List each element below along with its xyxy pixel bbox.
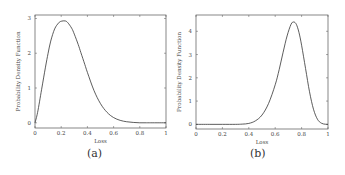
x-tick-label: 0 — [33, 130, 37, 136]
x-tick-label: 0.8 — [135, 130, 144, 136]
x-axis-label: Loss — [256, 139, 269, 145]
y-tick-label: 0 — [28, 120, 32, 126]
figure-canvas: 00.20.40.60.810123LossProbability Densit… — [0, 0, 345, 175]
pdf-curve — [35, 21, 166, 123]
x-tick-label: 0.2 — [57, 130, 66, 136]
y-tick-label: 2 — [28, 50, 32, 56]
x-tick-label: 0.4 — [244, 131, 253, 137]
caption-b: (b) — [250, 147, 266, 160]
x-axis-label: Loss — [94, 138, 107, 144]
plot-a: 00.20.40.60.810123LossProbability Densit… — [15, 15, 168, 144]
x-tick-label: 0 — [194, 131, 198, 137]
plot-frame — [35, 15, 166, 128]
x-tick-label: 0.6 — [271, 131, 280, 137]
pdf-curve — [196, 22, 328, 124]
y-axis-label: Probability Density Function — [176, 32, 183, 112]
y-tick-label: 3 — [189, 52, 193, 58]
x-tick-label: 0.8 — [297, 131, 306, 137]
y-tick-label: 1 — [28, 85, 32, 91]
x-tick-label: 1 — [164, 130, 168, 136]
y-tick-label: 2 — [189, 75, 193, 81]
x-tick-label: 0.2 — [218, 131, 227, 137]
y-tick-label: 1 — [189, 98, 193, 104]
x-tick-label: 1 — [326, 131, 330, 137]
x-tick-label: 0.6 — [109, 130, 118, 136]
y-tick-label: 4 — [189, 28, 193, 34]
plot-frame — [196, 15, 328, 129]
x-tick-label: 0.4 — [83, 130, 92, 136]
plot-b: 00.20.40.60.8101234LossProbability Densi… — [176, 15, 330, 145]
y-axis-label: Probability Density Function — [15, 31, 22, 111]
y-tick-label: 0 — [189, 121, 193, 127]
caption-a: (a) — [87, 147, 102, 160]
y-tick-label: 3 — [28, 15, 32, 21]
